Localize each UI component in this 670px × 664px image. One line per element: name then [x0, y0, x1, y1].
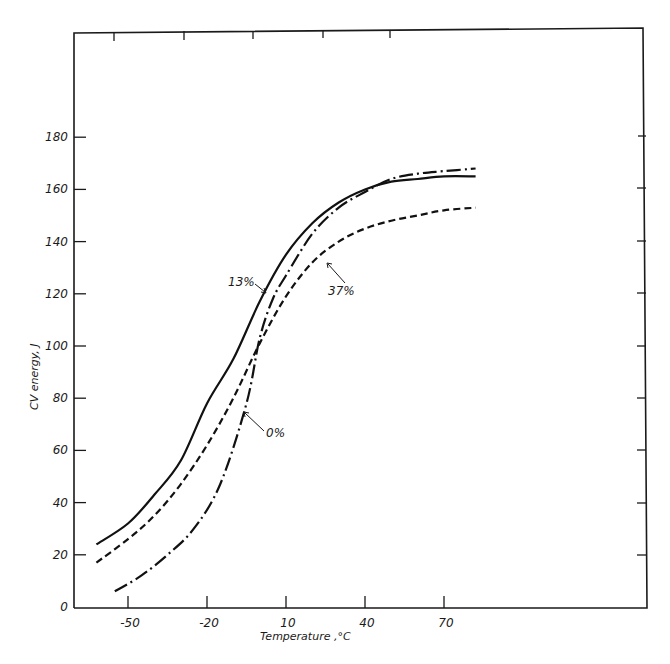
series-label-0: 0% [266, 426, 285, 440]
y-tick-label: 80 [53, 391, 69, 405]
y-tick-label: 160 [45, 182, 68, 196]
series-line-0-percent [115, 169, 476, 592]
y-tick-label: 60 [53, 443, 69, 457]
x-tick-label: 70 [438, 616, 454, 630]
x-tick-label: 10 [280, 616, 296, 630]
x-tick-label: 40 [359, 616, 375, 630]
label-37-percent: 37% [327, 263, 355, 298]
series-line-37-percent [96, 208, 475, 563]
series-label-37: 37% [328, 284, 355, 298]
y-tick-label: 180 [45, 130, 68, 144]
y-tick-label: 120 [45, 287, 68, 301]
plot-frame [74, 28, 647, 608]
y-axis: 020406080100120140160180 [45, 130, 86, 614]
cv-energy-chart: 020406080100120140160180 -50-20104070 Te… [0, 0, 670, 664]
x-tick-label: -50 [120, 616, 140, 630]
y-tick-label: 20 [53, 548, 69, 562]
x-tick-label: -20 [199, 616, 219, 630]
y-tick-label: 0 [60, 600, 68, 614]
label-0-percent: 0% [244, 412, 285, 440]
series-group [96, 169, 475, 592]
label-13-percent: 13% [228, 275, 266, 293]
series-label-13: 13% [228, 275, 255, 289]
y-tick-label: 40 [53, 496, 69, 510]
y-tick-label: 140 [45, 235, 68, 249]
y-axis-title: CV energy, J [28, 343, 41, 410]
y-tick-label: 100 [45, 339, 68, 353]
series-line-13-percent [96, 176, 475, 544]
x-axis-title: Temperature ,°C [260, 630, 351, 643]
x-axis: -50-20104070 [120, 596, 454, 630]
